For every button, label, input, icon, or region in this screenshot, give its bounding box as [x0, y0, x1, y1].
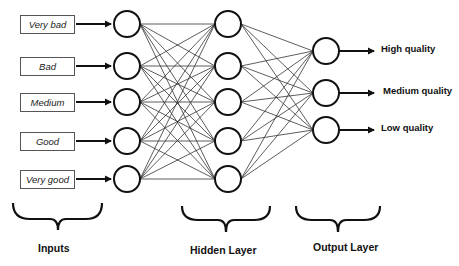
input-node — [114, 11, 140, 37]
hidden-node — [215, 53, 241, 79]
hidden-layer-label: Hidden Layer — [190, 244, 257, 256]
input-label-box: Bad — [20, 57, 75, 76]
hidden-node — [215, 11, 241, 37]
input-node — [114, 128, 140, 154]
input-node — [114, 89, 140, 115]
hidden-node — [215, 166, 241, 192]
nodes — [114, 11, 339, 192]
hidden-node — [215, 89, 241, 115]
output-node — [313, 117, 339, 143]
output-label: Low quality — [381, 122, 433, 133]
inputs-layer-label: Inputs — [38, 242, 70, 254]
braces — [13, 203, 380, 232]
inputs-brace — [13, 203, 102, 230]
input-label-box: Medium — [20, 93, 75, 112]
output-node — [313, 38, 339, 64]
input-label-box: Very good — [20, 170, 75, 189]
hidden-brace — [182, 206, 270, 232]
output-node — [313, 80, 339, 106]
input-label-box: Very bad — [20, 15, 75, 34]
output-brace — [296, 206, 380, 232]
output-label: High quality — [381, 43, 435, 54]
input-node — [114, 166, 140, 192]
input-node — [114, 53, 140, 79]
input-label-box: Good — [20, 132, 75, 151]
output-layer-label: Output Layer — [313, 241, 378, 253]
hidden-node — [215, 128, 241, 154]
output-label: Medium quality — [383, 85, 452, 96]
